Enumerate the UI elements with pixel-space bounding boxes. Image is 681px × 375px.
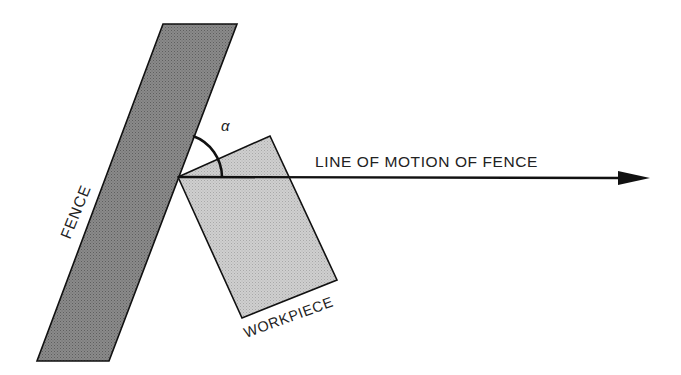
angle-alpha-label: α bbox=[221, 117, 230, 134]
arrowhead-icon bbox=[618, 171, 650, 185]
line-of-motion bbox=[178, 177, 622, 178]
line-of-motion-label: LINE OF MOTION OF FENCE bbox=[315, 153, 538, 170]
diagram-canvas: LINE OF MOTION OF FENCE α FENCE WORKPIEC… bbox=[0, 0, 681, 375]
diagram-svg: LINE OF MOTION OF FENCE α FENCE WORKPIEC… bbox=[0, 0, 681, 375]
workpiece-shape bbox=[178, 136, 337, 318]
